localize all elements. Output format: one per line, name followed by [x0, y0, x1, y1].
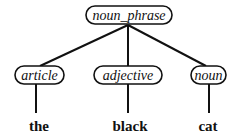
edge-root-article	[40, 25, 128, 66]
node-label: noun	[195, 68, 223, 83]
parse-tree-diagram: noun_phrase article adjective noun the b…	[0, 0, 238, 140]
node-noun-phrase: noun_phrase	[86, 6, 172, 24]
node-label: article	[21, 68, 58, 83]
leaf-black: black	[112, 118, 148, 134]
node-label: noun_phrase	[92, 8, 165, 23]
node-article: article	[15, 66, 64, 84]
node-noun: noun	[191, 66, 226, 84]
leaf-cat: cat	[198, 118, 217, 134]
edge-root-noun	[128, 25, 206, 66]
leaf-the: the	[29, 118, 49, 134]
node-adjective: adjective	[94, 66, 162, 84]
node-label: adjective	[103, 68, 154, 83]
